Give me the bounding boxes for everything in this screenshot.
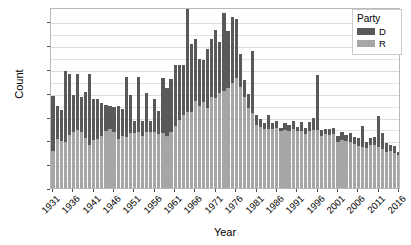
bar-stack[interactable] xyxy=(231,17,234,188)
bar-segment-d xyxy=(332,128,335,134)
legend-entry[interactable]: D xyxy=(357,27,397,37)
bar-stack[interactable] xyxy=(133,121,136,188)
bar-stack[interactable] xyxy=(235,19,238,188)
x-axis-tick-label: 1966 xyxy=(182,193,205,216)
bar-stack[interactable] xyxy=(194,39,197,188)
bar-stack[interactable] xyxy=(279,128,282,188)
bar-stack[interactable] xyxy=(145,93,148,188)
bar-stack[interactable] xyxy=(377,116,380,188)
bar-stack[interactable] xyxy=(312,118,315,188)
bar-stack[interactable] xyxy=(267,115,270,188)
bar-stack[interactable] xyxy=(349,133,352,188)
bar-stack[interactable] xyxy=(214,30,217,188)
bar-stack[interactable] xyxy=(287,125,290,188)
bar-stack[interactable] xyxy=(56,106,59,188)
bar-stack[interactable] xyxy=(255,115,258,188)
bar-segment-d xyxy=(312,118,315,130)
bar-stack[interactable] xyxy=(92,99,95,188)
bar-stack[interactable] xyxy=(202,60,205,188)
bar-stack[interactable] xyxy=(112,107,115,188)
bar-stack[interactable] xyxy=(361,126,364,188)
bar-stack[interactable] xyxy=(226,31,229,188)
bar-stack[interactable] xyxy=(251,51,254,188)
bar-stack[interactable] xyxy=(316,75,319,188)
bar-stack[interactable] xyxy=(328,129,331,188)
bar-stack[interactable] xyxy=(129,95,132,188)
bar-stack[interactable] xyxy=(336,136,339,188)
bar-stack[interactable] xyxy=(206,49,209,188)
bar-stack[interactable] xyxy=(296,127,299,188)
bar-segment-r xyxy=(202,102,205,188)
bar-stack[interactable] xyxy=(332,128,335,188)
bar-stack[interactable] xyxy=(186,8,189,188)
legend-entry[interactable]: R xyxy=(357,39,397,49)
bar-stack[interactable] xyxy=(308,122,311,188)
bar-stack[interactable] xyxy=(304,128,307,188)
bar-stack[interactable] xyxy=(218,42,221,188)
bar-stack[interactable] xyxy=(178,65,181,188)
bar-stack[interactable] xyxy=(340,132,343,188)
bar-stack[interactable] xyxy=(239,54,242,188)
bar-segment-r xyxy=(121,136,124,188)
bar-stack[interactable] xyxy=(161,78,164,188)
bar-stack[interactable] xyxy=(100,103,103,188)
x-axis-tick-label: 1961 xyxy=(161,193,184,216)
bar-stack[interactable] xyxy=(357,138,360,188)
bar-stack[interactable] xyxy=(385,143,388,188)
bar-stack[interactable] xyxy=(397,152,400,188)
bar-stack[interactable] xyxy=(243,80,246,188)
bar-stack[interactable] xyxy=(389,145,392,188)
bar-stack[interactable] xyxy=(369,138,372,188)
bar-stack[interactable] xyxy=(324,129,327,188)
bar-segment-d xyxy=(259,119,262,127)
bar-stack[interactable] xyxy=(88,74,91,188)
bar-segment-d xyxy=(320,130,323,136)
bar-stack[interactable] xyxy=(169,79,172,188)
x-axis-tick-label: 1941 xyxy=(80,193,103,216)
bar-stack[interactable] xyxy=(104,105,107,188)
bar-stack[interactable] xyxy=(165,88,168,189)
bar-stack[interactable] xyxy=(365,142,368,188)
bar-stack[interactable] xyxy=(174,65,177,188)
bar-stack[interactable] xyxy=(80,97,83,188)
bar-stack[interactable] xyxy=(121,109,124,188)
x-axis-tick-label: 2001 xyxy=(324,193,347,216)
bar-stack[interactable] xyxy=(198,59,201,188)
bar-segment-d xyxy=(308,122,311,131)
bar-segment-r xyxy=(153,132,156,188)
bar-stack[interactable] xyxy=(283,123,286,188)
bar-stack[interactable] xyxy=(259,119,262,188)
bar-stack[interactable] xyxy=(263,123,266,188)
bar-stack[interactable] xyxy=(393,146,396,188)
bar-stack[interactable] xyxy=(353,137,356,188)
bar-stack[interactable] xyxy=(149,121,152,188)
bar-stack[interactable] xyxy=(137,77,140,188)
bar-stack[interactable] xyxy=(247,94,250,188)
bar-stack[interactable] xyxy=(275,121,278,188)
bar-stack[interactable] xyxy=(381,133,384,188)
bar-stack[interactable] xyxy=(157,111,160,188)
bar-stack[interactable] xyxy=(68,74,71,188)
bar-stack[interactable] xyxy=(153,99,156,188)
bar-stack[interactable] xyxy=(222,13,225,188)
bar-stack[interactable] xyxy=(84,92,87,188)
bar-stack[interactable] xyxy=(60,110,63,188)
bar-stack[interactable] xyxy=(271,123,274,188)
bar-stack[interactable] xyxy=(76,74,79,188)
bar-stack[interactable] xyxy=(373,137,376,188)
bar-stack[interactable] xyxy=(141,121,144,188)
bar-stack[interactable] xyxy=(72,95,75,188)
bar-stack[interactable] xyxy=(96,99,99,188)
bar-stack[interactable] xyxy=(117,106,120,188)
bar-stack[interactable] xyxy=(300,122,303,188)
bar-stack[interactable] xyxy=(64,71,67,188)
bar-stack[interactable] xyxy=(190,44,193,188)
bar-stack[interactable] xyxy=(182,65,185,188)
bar-stack[interactable] xyxy=(320,130,323,188)
bar-stack[interactable] xyxy=(108,106,111,188)
bar-stack[interactable] xyxy=(125,77,128,188)
bar-stack[interactable] xyxy=(344,135,347,188)
bar-stack[interactable] xyxy=(210,39,213,188)
bar-stack[interactable] xyxy=(51,96,54,188)
bar-stack[interactable] xyxy=(292,121,295,188)
